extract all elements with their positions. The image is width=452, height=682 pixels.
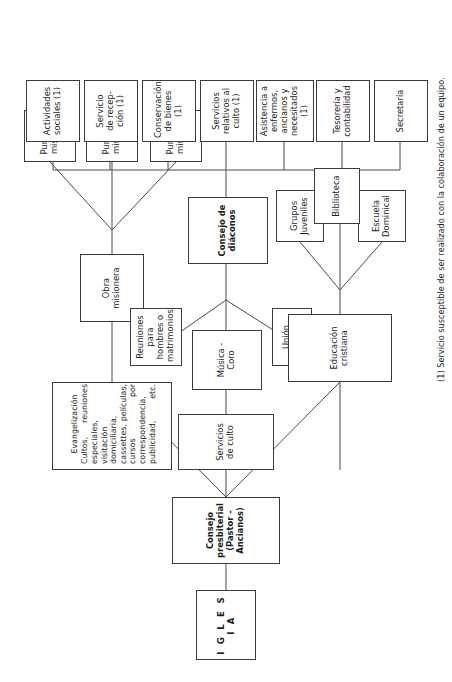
node-servicios-relativos-culto[interactable]: Servicios relativos al culto (1) — [200, 80, 254, 142]
node-secretaria-label: Secretaría — [396, 84, 406, 138]
node-tesoreria-contabilidad[interactable]: Tesorería y contabilidad — [316, 80, 370, 142]
node-grupos-juveniles-label: Grupos Juveniles — [290, 194, 310, 238]
node-escuela-dominical[interactable]: Escuela Dominical — [358, 190, 406, 242]
node-evangelizacion-body: Cultos, reuniones especiales, visitación… — [80, 384, 156, 464]
node-consejo-diaconos[interactable]: Consejo de diáconos — [188, 197, 268, 264]
node-asistencia-enfermos[interactable]: Asistencia a enfermos, ancianos y necesi… — [256, 80, 314, 142]
node-educacion-cristiana[interactable]: Educación cristiana — [288, 314, 392, 382]
node-musica-coro[interactable]: Música - Coro — [192, 330, 262, 390]
node-biblioteca-label: Biblioteca — [332, 172, 342, 220]
node-evangelizacion[interactable]: EvangelizaciónCultos, reuniones especial… — [52, 382, 172, 470]
node-biblioteca[interactable]: Biblioteca — [314, 168, 360, 224]
node-escuela-dominical-label: Escuela Dominical — [372, 194, 392, 238]
node-reuniones-hombres-matrimonios-label: Reuniones para hombres o matrimonios — [136, 312, 176, 362]
rotated-diagram-wrapper: I G L E S I A Consejo presbiterial (Past… — [0, 0, 452, 682]
node-obra-misionera-label: Obra misionera — [102, 258, 122, 318]
node-conservacion-bienes-label: Conservación de bienes (1) — [154, 84, 184, 138]
node-conservacion-bienes[interactable]: Conservación de bienes (1) — [142, 80, 196, 142]
diagram-canvas: I G L E S I A Consejo presbiterial (Past… — [0, 0, 452, 682]
node-consejo-diaconos-label: Consejo de diáconos — [218, 201, 238, 260]
node-iglesia[interactable]: I G L E S I A — [196, 590, 256, 660]
footnote-text: (1) Servicio susceptible de ser realizad… — [436, 77, 446, 382]
node-iglesia-label: I G L E S I A — [216, 594, 236, 656]
node-tesoreria-contabilidad-label: Tesorería y contabilidad — [333, 84, 353, 138]
node-actividades-sociales[interactable]: Actividades sociales (1) — [26, 80, 80, 142]
node-servicio-recepcion-label: Servicio de recep- ción (1) — [96, 84, 126, 138]
node-secretaria[interactable]: Secretaría — [374, 80, 428, 142]
node-servicios-relativos-culto-label: Servicios relativos al culto (1) — [212, 84, 242, 138]
node-consejo-presbiterial[interactable]: Consejo presbiterial (Pastor - Ancianos) — [172, 497, 280, 564]
node-musica-coro-label: Música - Coro — [217, 334, 237, 386]
node-servicios-de-culto-label: Servicios de culto — [216, 418, 236, 466]
node-consejo-presbiterial-label: Consejo presbiterial (Pastor - Ancianos) — [206, 501, 246, 560]
node-servicios-de-culto[interactable]: Servicios de culto — [178, 414, 274, 470]
node-actividades-sociales-label: Actividades sociales (1) — [43, 84, 63, 138]
node-evangelizacion-title: Evangelización — [70, 384, 80, 464]
diagram-page: I G L E S I A Consejo presbiterial (Past… — [0, 0, 452, 682]
node-reuniones-hombres-matrimonios[interactable]: Reuniones para hombres o matrimonios — [130, 308, 182, 366]
node-asistencia-enfermos-label: Asistencia a enfermos, ancianos y necesi… — [260, 84, 310, 138]
node-educacion-cristiana-label: Educación cristiana — [330, 318, 350, 378]
node-servicio-recepcion[interactable]: Servicio de recep- ción (1) — [84, 80, 138, 142]
